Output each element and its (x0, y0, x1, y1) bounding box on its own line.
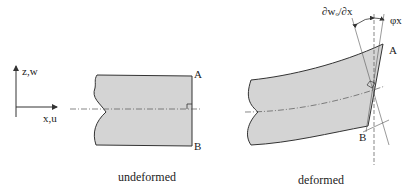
slope-label: ∂wₒ/∂x (322, 5, 353, 17)
deformed-beam: ∂wₒ/∂x φx A B deformed (245, 5, 402, 186)
undeformed-caption: undeformed (118, 170, 176, 184)
beam-deformation-diagram: z,w x,u A B undeformed ∂wₒ/∂x φx A B def… (0, 0, 403, 186)
deformed-caption: deformed (298, 173, 344, 186)
coordinate-axes: z,w x,u (16, 65, 57, 124)
undeformed-point-a: A (194, 68, 202, 80)
x-axis-label: x,u (43, 112, 57, 124)
undeformed-point-b: B (194, 140, 201, 152)
z-axis-label: z,w (22, 65, 38, 77)
deformed-point-a: A (389, 44, 397, 56)
deformed-point-b: B (359, 131, 366, 143)
undeformed-beam: A B undeformed (70, 68, 202, 184)
rotation-label: φx (390, 14, 402, 26)
